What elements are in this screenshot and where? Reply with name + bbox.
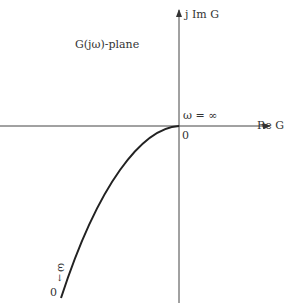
imag-axis-label: j Im G [185,8,219,21]
omega-direction-arrow: ↓ [56,273,64,283]
diagram-graphics [0,0,294,303]
omega-infinity-label: ω = ∞ [183,109,217,122]
nyquist-curve [61,126,179,298]
nyquist-diagram: j Im G G(jω)-plane ω = ∞ 0 Re G ω ↓ 0 [0,0,294,303]
plane-label: G(jω)-plane [75,38,139,51]
origin-label: 0 [182,129,189,142]
omega-zero-label: 0 [50,286,57,299]
omega-label: ω [55,263,68,272]
real-axis-label: Re G [257,119,284,132]
